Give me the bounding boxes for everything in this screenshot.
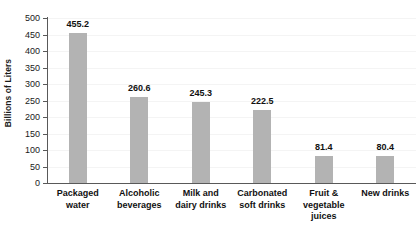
bar — [376, 156, 394, 183]
bar-value-label: 245.3 — [171, 89, 231, 98]
y-tick-label: 500 — [0, 14, 40, 23]
category-label: New drinks — [355, 188, 417, 200]
bar-value-label: 80.4 — [355, 143, 415, 152]
category-label: Milk and dairy drinks — [170, 188, 232, 211]
bar — [315, 156, 333, 183]
category-label: Carbonated soft drinks — [232, 188, 294, 211]
y-tick-label: 0 — [0, 179, 40, 188]
bar-chart: Billions of Liters 050100150200250300350… — [0, 0, 418, 240]
bar — [69, 33, 87, 183]
y-tick-label: 300 — [0, 80, 40, 89]
bar-value-label: 260.6 — [109, 84, 169, 93]
y-tick-label: 400 — [0, 47, 40, 56]
y-tick-label: 200 — [0, 113, 40, 122]
x-axis-line — [47, 183, 416, 184]
category-label: Packaged water — [47, 188, 109, 211]
y-tick-label: 250 — [0, 96, 40, 105]
y-tick-label: 100 — [0, 146, 40, 155]
bar — [253, 110, 271, 183]
y-tick-label: 50 — [0, 162, 40, 171]
bar — [192, 102, 210, 183]
y-tick-label: 350 — [0, 63, 40, 72]
bar-value-label: 455.2 — [48, 20, 108, 29]
bar-value-label: 222.5 — [232, 97, 292, 106]
y-tick-label: 150 — [0, 129, 40, 138]
bar — [130, 97, 148, 183]
y-axis-title: Billions of Liters — [0, 0, 16, 186]
y-tick-label: 450 — [0, 30, 40, 39]
bar-value-label: 81.4 — [294, 143, 354, 152]
category-label: Alcoholic beverages — [109, 188, 171, 211]
category-label: Fruit & vegetable juices — [293, 188, 355, 223]
y-tick-mark — [43, 183, 47, 184]
